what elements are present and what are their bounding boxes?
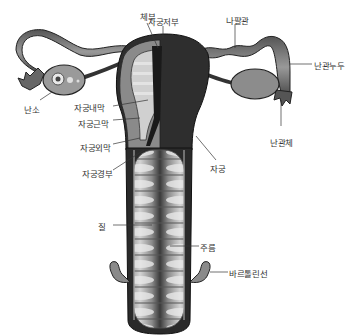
anatomy-illustration	[0, 0, 360, 336]
left-fimbriae	[18, 68, 44, 90]
left-ovary	[43, 65, 85, 95]
label-cervix: 자궁경부	[82, 167, 113, 179]
label-perimetrium: 자궁외막	[80, 141, 111, 153]
label-vagina: 질	[98, 220, 106, 232]
label-endometrium: 자궁내막	[74, 101, 105, 113]
uterus	[116, 34, 209, 150]
label-uterus: 자궁	[210, 162, 225, 174]
label-rugae: 주름	[200, 241, 215, 253]
label-bartholin-gland: 바르톨린선	[229, 267, 268, 279]
right-fimbriae	[274, 90, 292, 106]
label-fundus: 자궁저부	[148, 15, 179, 27]
label-fimbriae: 난관체	[270, 136, 293, 148]
label-ovary: 난소	[24, 103, 39, 115]
vagina	[126, 148, 192, 334]
reproductive-anatomy-diagram: 체부 자궁저부 나팔관 난관누두 난소 자궁내막 자궁근막 자궁외막 자궁경부 …	[0, 0, 360, 336]
right-ovary	[231, 69, 279, 99]
label-myometrium: 자궁근막	[78, 117, 109, 129]
label-fallopian-tube: 나팔관	[226, 14, 249, 26]
label-tubal-infundibulum: 난관누두	[314, 59, 345, 71]
